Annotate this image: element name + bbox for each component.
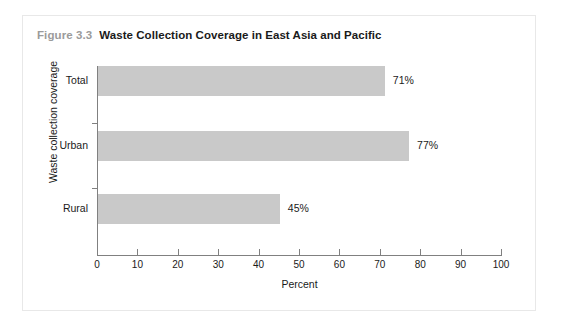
category-label-total: Total bbox=[28, 74, 88, 86]
x-axis-tick-20 bbox=[178, 249, 179, 255]
chart-plot-area: Waste collection coverage Percent 71%77%… bbox=[23, 16, 537, 312]
bar-value-total: 71% bbox=[393, 74, 414, 86]
x-axis-tick-80 bbox=[420, 249, 421, 255]
x-axis-tick-90 bbox=[461, 249, 462, 255]
bar-total bbox=[98, 66, 385, 96]
x-axis-tick-label-10: 10 bbox=[117, 259, 157, 270]
y-axis-tick-0 bbox=[92, 123, 97, 124]
x-axis-tick-label-70: 70 bbox=[360, 259, 400, 270]
x-axis-tick-label-40: 40 bbox=[239, 259, 279, 270]
x-axis-tick-label-80: 80 bbox=[400, 259, 440, 270]
category-label-urban: Urban bbox=[28, 139, 88, 151]
bar-value-rural: 45% bbox=[288, 202, 309, 214]
x-axis-tick-10 bbox=[137, 249, 138, 255]
x-axis-tick-label-20: 20 bbox=[158, 259, 198, 270]
figure-container: Figure 3.3Waste Collection Coverage in E… bbox=[22, 15, 536, 311]
x-axis-tick-40 bbox=[259, 249, 260, 255]
bar-rural bbox=[98, 194, 280, 224]
x-axis-title: Percent bbox=[97, 278, 502, 290]
x-axis-tick-50 bbox=[299, 249, 300, 255]
bar-urban bbox=[98, 131, 409, 161]
x-axis-tick-0 bbox=[97, 249, 98, 255]
x-axis-tick-label-100: 100 bbox=[481, 259, 521, 270]
y-axis-title: Waste collection coverage bbox=[47, 32, 59, 212]
x-axis-tick-30 bbox=[218, 249, 219, 255]
x-axis-tick-label-0: 0 bbox=[77, 259, 117, 270]
bar-value-urban: 77% bbox=[417, 139, 438, 151]
x-axis-tick-label-60: 60 bbox=[319, 259, 359, 270]
x-axis-tick-label-90: 90 bbox=[441, 259, 481, 270]
x-axis-tick-label-50: 50 bbox=[279, 259, 319, 270]
x-axis-tick-60 bbox=[339, 249, 340, 255]
category-label-rural: Rural bbox=[28, 202, 88, 214]
x-axis-tick-100 bbox=[501, 249, 502, 255]
x-axis-tick-70 bbox=[380, 249, 381, 255]
x-axis-tick-label-30: 30 bbox=[198, 259, 238, 270]
x-axis-line bbox=[97, 255, 502, 256]
y-axis-tick-1 bbox=[92, 188, 97, 189]
